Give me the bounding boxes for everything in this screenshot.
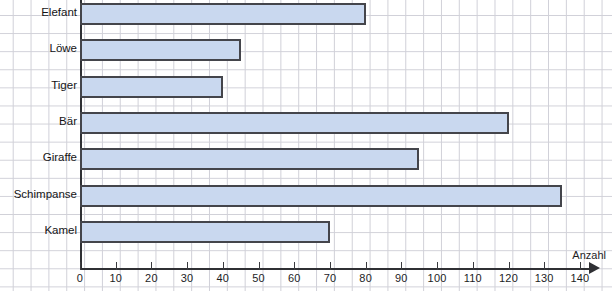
x-axis-tick (187, 262, 188, 270)
x-axis-tick (116, 262, 117, 270)
x-axis-tick-label: 40 (203, 272, 243, 284)
x-axis-tick-label: 50 (239, 272, 279, 284)
category-label: Löwe (0, 42, 77, 54)
bar (80, 76, 223, 98)
bar (80, 39, 241, 61)
x-axis-tick (544, 262, 545, 270)
bar (80, 112, 509, 134)
x-axis-tick-label: 10 (96, 272, 136, 284)
x-axis-tick-label: 90 (381, 272, 421, 284)
bar-chart: Anzahl 010203040506070809010011012013014… (0, 0, 612, 291)
plot-area: Anzahl 010203040506070809010011012013014… (0, 0, 612, 291)
category-label: Bär (0, 115, 77, 127)
category-label: Schimpanse (0, 188, 77, 200)
x-axis-tick-label: 140 (560, 272, 600, 284)
category-label: Giraffe (0, 151, 77, 163)
x-axis-tick-label: 20 (131, 272, 171, 284)
x-axis-tick (437, 262, 438, 270)
category-label: Elefant (0, 6, 77, 18)
x-axis-tick-label: 30 (167, 272, 207, 284)
x-axis-tick (294, 262, 295, 270)
x-axis-tick (223, 262, 224, 270)
x-axis-tick-label: 100 (417, 272, 457, 284)
x-axis-tick (509, 262, 510, 270)
x-axis-tick-label: 80 (346, 272, 386, 284)
category-label: Kamel (0, 224, 77, 236)
x-axis-title: Anzahl (572, 249, 606, 261)
x-axis-tick-label: 120 (489, 272, 529, 284)
bar (80, 221, 330, 243)
x-axis-tick-label: 0 (60, 272, 100, 284)
category-label: Tiger (0, 79, 77, 91)
x-axis-tick (151, 262, 152, 270)
x-axis-tick (330, 262, 331, 270)
x-axis-tick (580, 262, 581, 270)
bar (80, 3, 366, 25)
x-axis-tick (366, 262, 367, 270)
x-axis-line (80, 268, 592, 270)
bar (80, 185, 562, 207)
x-axis-tick (259, 262, 260, 270)
x-axis-tick (401, 262, 402, 270)
x-axis-tick (80, 262, 81, 270)
x-axis-tick (473, 262, 474, 270)
bar (80, 148, 419, 170)
x-axis-tick-label: 60 (274, 272, 314, 284)
x-axis-tick-label: 130 (524, 272, 564, 284)
x-axis-tick-label: 110 (453, 272, 493, 284)
x-axis-tick-label: 70 (310, 272, 350, 284)
